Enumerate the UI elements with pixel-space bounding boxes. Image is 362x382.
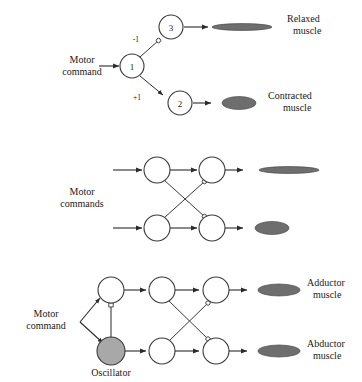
oscillator-label: Oscillator (91, 367, 131, 378)
node-1-label: 1 (130, 62, 135, 72)
node-b-bottom-right[interactable] (203, 338, 229, 364)
edge-motor-to-b-top-left (80, 298, 100, 322)
panel-bottom-input-label-line2: command (26, 320, 65, 331)
muscle-adductor-label-line2: muscle (313, 289, 342, 300)
weight-label-plus1: +1 (133, 93, 141, 102)
node-3-label: 3 (169, 23, 174, 33)
panel-middle: Motor commands (60, 157, 319, 241)
node-b-top-left[interactable] (98, 277, 124, 303)
node-m-top-left[interactable] (144, 157, 170, 183)
edge-motor-to-oscillator (80, 322, 103, 343)
muscle-contracted-label-line1: Contracted (268, 90, 312, 101)
node-b-bottom-mid[interactable] (149, 338, 175, 364)
weight-label-minus1: -1 (133, 35, 139, 44)
muscle-relaxed-label-line2: muscle (293, 25, 322, 36)
node-b-oscillator[interactable] (97, 337, 125, 365)
muscle-abductor-label-line1: Abductor (307, 338, 345, 349)
node-m-bottom-right[interactable] (199, 215, 225, 241)
muscle-adductor-label-line1: Adductor (307, 277, 345, 288)
panel-bottom-input-label-line1: Motor (34, 308, 60, 319)
edge-b-top-mid-to-bottom-right-inhibitory (169, 301, 208, 339)
edge-n1-n2-excitatory (140, 76, 163, 95)
node-m-top-right[interactable] (199, 157, 225, 183)
node-b-top-right[interactable] (203, 277, 229, 303)
muscle-contracted-shape (222, 97, 256, 110)
edge-m-top-left-to-bottom-right-inhibitory (164, 180, 205, 217)
panel-middle-input-label-line1: Motor (70, 186, 96, 197)
edge-n1-n3-inhibitory (140, 41, 159, 58)
node-m-bottom-left[interactable] (144, 215, 170, 241)
panel-middle-input-label-line2: commands (60, 198, 103, 209)
edge-b-bottom-mid-to-top-right-inhibitory (169, 303, 208, 341)
muscle-relaxed-shape (212, 24, 272, 31)
muscle-upper-shape (259, 167, 319, 174)
muscle-abductor-label-line2: muscle (313, 350, 342, 361)
panel-top-input-label-line1: Motor (70, 54, 96, 65)
muscle-adductor-shape (258, 284, 300, 296)
panel-top: Motor command -1 +1 1 3 2 Relaxed muscle (62, 13, 322, 115)
muscle-contracted-label-line2: muscle (283, 102, 312, 113)
node-2-label: 2 (178, 99, 183, 109)
edge-m-bottom-left-to-top-right-inhibitory (164, 182, 205, 219)
panel-top-input-label-line2: command (62, 66, 101, 77)
muscle-relaxed-label-line1: Relaxed (287, 13, 320, 24)
circuit-diagram-svg: Motor command -1 +1 1 3 2 Relaxed muscle (0, 0, 362, 382)
muscle-lower-shape (255, 222, 289, 235)
panel-bottom: Motor command Oscillator (26, 277, 345, 378)
node-b-top-mid[interactable] (149, 277, 175, 303)
muscle-abductor-shape (258, 345, 300, 357)
figure-root: Motor command -1 +1 1 3 2 Relaxed muscle (0, 0, 362, 382)
